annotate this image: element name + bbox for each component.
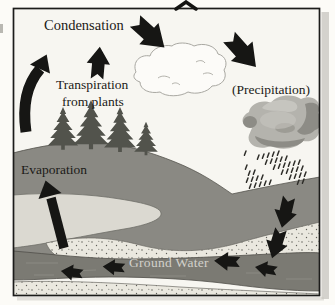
transpiration-label: Transpiration from plants	[56, 76, 128, 110]
page-shadow-right	[322, 12, 330, 299]
transpiration-label-line1: Transpiration	[56, 77, 128, 92]
ground-water-label: Ground Water	[129, 255, 209, 271]
condensation-label: Condensation	[44, 17, 124, 34]
page-shadow-bottom	[17, 297, 324, 301]
precipitation-label: (Precipitation)	[232, 82, 310, 98]
evaporation-label: Evaporation	[21, 162, 87, 178]
water-cycle-diagram: Condensation Transpiration from plants (…	[0, 0, 335, 305]
scan-artifact	[0, 24, 3, 33]
transpiration-label-line2: from plants	[62, 93, 128, 110]
